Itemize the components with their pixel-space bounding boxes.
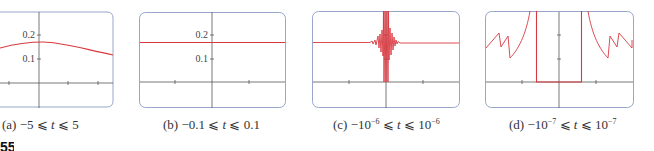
caption-d: (d) −10−7 ⩽ t ⩽ 10−7	[509, 117, 616, 133]
panel-d: (d) −10−7 ⩽ t ⩽ 10−7	[0, 0, 654, 140]
cut-off-figure-number: 55	[0, 140, 14, 151]
curve-d-right	[588, 11, 632, 58]
plot-d	[0, 0, 654, 112]
curve-d-left	[486, 11, 530, 58]
